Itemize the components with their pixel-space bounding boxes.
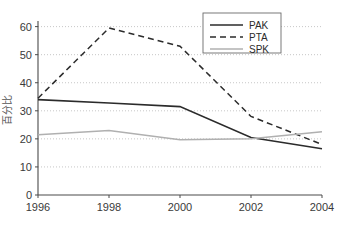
y-tick-label: 60	[20, 21, 32, 33]
y-tick-label: 50	[20, 49, 32, 61]
y-tick-label: 40	[20, 77, 32, 89]
legend-background	[203, 13, 281, 53]
x-tick-label: 2000	[168, 201, 192, 213]
x-tick-label: 1998	[97, 201, 121, 213]
legend-label-pta: PTA	[249, 32, 268, 43]
y-axis-title-text: 百分比	[2, 95, 13, 125]
y-tick-label: 10	[20, 161, 32, 173]
y-tick-label: 20	[20, 133, 32, 145]
legend-label-spk: SPK	[249, 44, 269, 55]
chart-background	[0, 0, 337, 227]
y-axis-title: 百分比	[2, 95, 13, 125]
y-tick-label: 30	[20, 105, 32, 117]
y-tick-label: 0	[26, 189, 32, 201]
x-tick-label: 2004	[310, 201, 334, 213]
x-tick-label: 2002	[239, 201, 263, 213]
x-tick-label: 1996	[26, 201, 50, 213]
chart-container: 0102030405060 19961998200020022004 百分比 P…	[0, 0, 337, 227]
line-chart: 0102030405060 19961998200020022004 百分比 P…	[0, 0, 337, 227]
chart-legend: PAKPTASPK	[203, 13, 281, 55]
legend-label-pak: PAK	[249, 20, 269, 31]
